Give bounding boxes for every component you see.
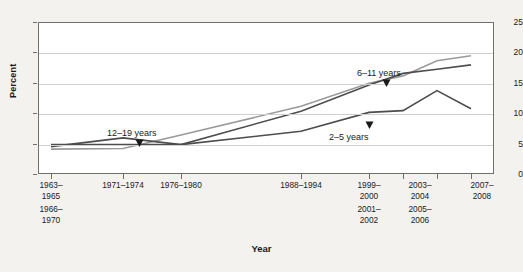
gridline-20 bbox=[39, 53, 493, 54]
x-tick-line-2: 2000 bbox=[357, 191, 380, 202]
x-tick-label-1999-2000: 1999– 2000 bbox=[357, 180, 380, 201]
x-tick-mark-0 bbox=[51, 174, 52, 179]
y-tick-label-5: 5 bbox=[501, 139, 523, 149]
down-triangle-icon-6-11 bbox=[382, 79, 391, 88]
down-triangle-icon-2-5 bbox=[365, 121, 374, 130]
x-tick-line-4: 2002 bbox=[357, 215, 380, 226]
x-tick-label-1966-1970: 1966– 1970 bbox=[39, 204, 62, 225]
x-tick-label-2001-2002: 2001– 2002 bbox=[357, 204, 380, 225]
x-tick-line-1: 2007– bbox=[470, 180, 493, 191]
x-tick-line-1: 1963– bbox=[39, 180, 62, 191]
y-tick-label-20: 20 bbox=[501, 47, 523, 57]
series-lines bbox=[39, 23, 493, 173]
y-tick-label-0: 0 bbox=[501, 169, 523, 179]
x-tick-mark-4 bbox=[369, 174, 370, 179]
series-annotation-2-5: 2–5 years bbox=[329, 132, 369, 142]
gridline-10 bbox=[39, 114, 493, 115]
x-tick-line-4: 1970 bbox=[39, 215, 62, 226]
x-tick-line-3: 1966– bbox=[39, 204, 62, 215]
plot-area: 12–19 years 6–11 years 2–5 years bbox=[38, 22, 494, 174]
y-tick-label-10: 10 bbox=[501, 108, 523, 118]
x-tick-label-2007-2008: 2007– 2008 bbox=[470, 180, 493, 201]
x-tick-line-1: 1999– bbox=[357, 180, 380, 191]
y-tick-mark-10 bbox=[33, 113, 37, 114]
chart-figure: Percent 0 5 10 15 20 25 12–19 years bbox=[0, 0, 523, 272]
x-tick-label-2003-2004: 2003– 2004 bbox=[408, 180, 431, 201]
x-tick-mark-1 bbox=[123, 174, 124, 179]
down-triangle-icon-12-19 bbox=[135, 139, 144, 148]
x-tick-mark-2 bbox=[181, 174, 182, 179]
x-tick-label-1988-1994: 1988–1994 bbox=[280, 180, 322, 191]
gridline-15 bbox=[39, 84, 493, 85]
x-tick-line-2: 1965 bbox=[39, 191, 62, 202]
x-tick-line-3: 2001– bbox=[357, 204, 380, 215]
x-tick-line-4: 2006 bbox=[408, 215, 431, 226]
x-tick-label-1976-1980: 1976–1980 bbox=[160, 180, 202, 191]
y-tick-label-15: 15 bbox=[501, 78, 523, 88]
series-annotation-12-19: 12–19 years bbox=[107, 128, 157, 138]
y-tick-mark-0 bbox=[33, 174, 37, 175]
x-tick-label-2005-2006: 2005– 2006 bbox=[408, 204, 431, 225]
y-tick-mark-15 bbox=[33, 83, 37, 84]
x-tick-mark-6 bbox=[437, 174, 438, 179]
y-tick-mark-25 bbox=[33, 22, 37, 23]
series-annotation-6-11: 6–11 years bbox=[357, 68, 401, 78]
x-tick-line-2: 2008 bbox=[470, 191, 493, 202]
y-tick-mark-5 bbox=[33, 144, 37, 145]
x-tick-mark-7 bbox=[471, 174, 472, 179]
y-tick-label-25: 25 bbox=[501, 17, 523, 27]
x-tick-line-2: 2004 bbox=[408, 191, 431, 202]
x-tick-mark-5 bbox=[403, 174, 404, 179]
gridline-5 bbox=[39, 145, 493, 146]
x-tick-label-1971-1974: 1971–1974 bbox=[102, 180, 144, 191]
x-tick-label-1963-1965: 1963– 1965 bbox=[39, 180, 62, 201]
x-tick-mark-3 bbox=[301, 174, 302, 179]
y-tick-mark-20 bbox=[33, 52, 37, 53]
x-tick-line-1: 2003– bbox=[408, 180, 431, 191]
x-axis-title: Year bbox=[0, 243, 523, 254]
y-axis-title: Percent bbox=[8, 64, 18, 98]
x-tick-line-3: 2005– bbox=[408, 204, 431, 215]
